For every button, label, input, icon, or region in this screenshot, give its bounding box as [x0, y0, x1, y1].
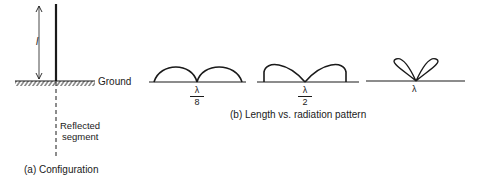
pattern-eighth-wave [149, 67, 246, 82]
fraction-denominator: 2 [298, 97, 312, 107]
pattern-label-half: λ 2 [298, 86, 312, 107]
fraction-denominator: 8 [190, 97, 204, 107]
fraction-numerator: λ [298, 86, 312, 97]
pattern-label-full: λ [412, 84, 417, 95]
pattern-label-eighth: λ 8 [190, 86, 204, 107]
reflected-label-line2: segment [62, 131, 98, 142]
pattern-half-wave [257, 65, 359, 82]
reflected-label-line1: Reflected [60, 120, 100, 131]
ground-label: Ground [98, 76, 131, 87]
length-label: l [36, 36, 38, 47]
patterns-caption: (b) Length vs. radiation pattern [230, 109, 366, 120]
ground-hatch [15, 81, 95, 86]
fraction-numerator: λ [190, 86, 204, 97]
pattern-full-wave [366, 59, 465, 81]
configuration-caption: (a) Configuration [24, 164, 98, 175]
